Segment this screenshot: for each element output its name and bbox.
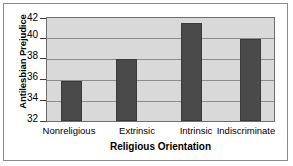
bar-extrinsic — [116, 59, 137, 121]
y-tick-label-34: 34 — [4, 93, 38, 103]
plot-area — [46, 17, 275, 122]
figure-frame: Antilesbian Prejudice 32 34 36 38 40 42 … — [3, 3, 288, 161]
y-tick-label-38: 38 — [4, 51, 38, 61]
x-axis-title: Religious Orientation — [46, 141, 275, 152]
y-tick-label-40: 40 — [4, 30, 38, 40]
bar-indiscriminate — [240, 39, 261, 121]
y-tick-label-42: 42 — [4, 13, 38, 23]
y-tick-label-36: 36 — [4, 72, 38, 82]
y-tick-label-32: 32 — [4, 114, 38, 124]
x-tick-label-indiscriminate: Indiscriminate — [202, 125, 290, 136]
bar-series — [47, 18, 274, 121]
bar-nonreligious — [61, 81, 82, 121]
bar-intrinsic — [181, 23, 202, 121]
